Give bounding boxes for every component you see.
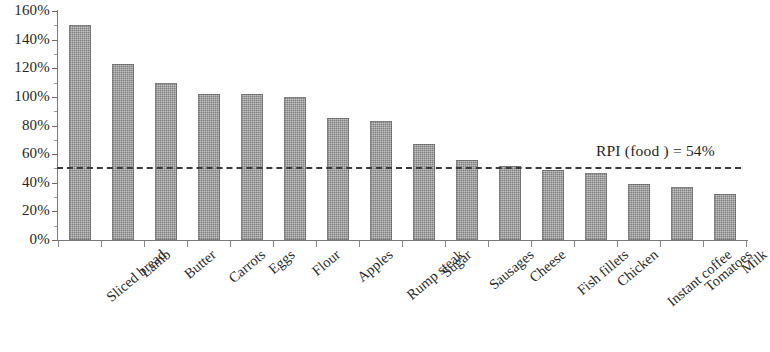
x-axis-tick [101,241,102,247]
y-axis-tick-label: 80% [2,118,50,133]
x-axis-tick [144,241,145,247]
y-axis-tick-label: 120% [2,60,50,75]
x-axis-tick [316,241,317,247]
x-axis-tick [703,241,704,247]
x-axis-category-label: Carrots [226,247,268,286]
x-axis-tick [445,241,446,247]
bar [671,187,693,240]
y-axis-tick-label: 0% [2,232,50,247]
rpi-reference-line [57,167,741,169]
bar [628,184,650,240]
x-axis-tick [617,241,618,247]
y-axis-tick-label: 40% [2,175,50,190]
x-axis-tick [746,241,747,247]
bar [542,170,564,240]
x-axis-tick [230,241,231,247]
x-axis-category-label: Flour [309,247,343,279]
x-axis-category-label: Sugar [439,247,475,280]
bar [413,144,435,240]
bar [585,173,607,240]
y-axis-tick-label: 140% [2,32,50,47]
x-axis-category-label: Cheese [527,247,569,285]
bar [112,64,134,240]
rpi-reference-label: RPI (food ) = 54% [596,142,715,159]
x-axis-category-label: Eggs [266,247,298,277]
y-axis-tick-label: 20% [2,203,50,218]
plot-area [58,11,748,240]
x-axis-tick [488,241,489,247]
bar [714,194,736,240]
bar [69,25,91,240]
bar [370,121,392,240]
x-axis-category-label: Lamb [138,247,174,280]
x-axis-tick [187,241,188,247]
y-axis-tick-label: 100% [2,89,50,104]
bar [155,83,177,240]
y-axis-tick-label: 160% [2,3,50,18]
x-axis-category-label: Apples [355,247,396,285]
x-axis-tick [574,241,575,247]
x-axis-tick [660,241,661,247]
x-axis-tick [359,241,360,247]
x-axis-category-label: Butter [181,247,218,282]
x-axis-tick [531,241,532,247]
x-axis-tick [273,241,274,247]
bar [456,160,478,240]
y-axis-tick-label: 60% [2,146,50,161]
bar [499,166,521,240]
bar [327,118,349,240]
x-axis-tick [58,241,59,247]
x-axis-tick [402,241,403,247]
